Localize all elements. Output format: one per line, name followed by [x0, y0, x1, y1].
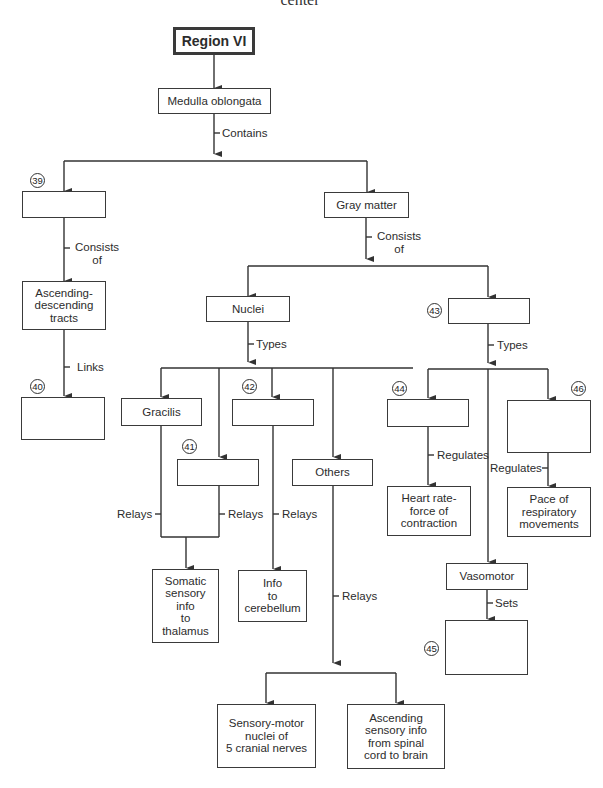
node-region-vi-text: Region VI	[182, 35, 247, 48]
node-somatic-sensory: Somatic sensory info to thalamus	[152, 569, 219, 643]
node-vasomotor-text: Vasomotor	[460, 570, 515, 583]
label-contains: Contains	[222, 127, 267, 140]
node-ascending-sensory-text: Ascending sensory info from spinal cord …	[364, 712, 428, 762]
node-heart-rate-text: Heart rate- force of contraction	[401, 492, 457, 530]
node-gray-matter-text: Gray matter	[336, 199, 397, 212]
node-others-text: Others	[315, 466, 350, 479]
node-vasomotor: Vasomotor	[446, 563, 528, 590]
node-pace-respiratory-text: Pace of respiratory movements	[519, 493, 578, 531]
label-relays-42: Relays	[282, 508, 317, 521]
number-badge-43: 43	[427, 303, 442, 318]
node-heart-rate: Heart rate- force of contraction	[387, 486, 471, 536]
node-blank-41[interactable]	[177, 459, 259, 486]
label-consists-left: Consists of	[75, 241, 119, 266]
node-blank-43[interactable]	[448, 298, 530, 324]
label-regulates-46: Regulates	[490, 462, 542, 475]
node-pace-respiratory: Pace of respiratory movements	[507, 487, 591, 537]
node-gracilis-text: Gracilis	[142, 406, 180, 419]
node-medulla-oblongata: Medulla oblongata	[158, 88, 271, 114]
node-blank-45[interactable]	[445, 620, 528, 675]
node-medulla-text: Medulla oblongata	[168, 95, 262, 108]
number-badge-44: 44	[392, 381, 407, 396]
label-consists-right: Consists of	[377, 230, 421, 255]
number-badge-40: 40	[30, 379, 45, 394]
node-blank-42[interactable]	[232, 399, 314, 426]
node-ascending-sensory-info: Ascending sensory info from spinal cord …	[347, 704, 445, 769]
label-types-43: Types	[497, 339, 528, 352]
node-gracilis: Gracilis	[121, 398, 202, 426]
node-blank-46[interactable]	[507, 400, 591, 453]
label-regulates-44: Regulates	[437, 449, 489, 462]
label-types-nuclei: Types	[256, 338, 287, 351]
node-nuclei-text: Nuclei	[232, 303, 264, 316]
node-sensory-motor-nuclei: Sensory-motor nuclei of 5 cranial nerves	[217, 704, 316, 768]
label-sets: Sets	[495, 597, 518, 610]
node-info-cerebellum: Info to cerebellum	[238, 570, 307, 622]
node-nuclei: Nuclei	[206, 296, 290, 322]
number-badge-41: 41	[182, 439, 197, 454]
number-badge-46: 46	[571, 381, 586, 396]
node-tracts: Ascending- descending tracts	[22, 281, 106, 330]
label-links: Links	[77, 361, 104, 374]
node-blank-44[interactable]	[387, 399, 469, 427]
node-blank-39[interactable]	[22, 191, 106, 218]
number-badge-39: 39	[30, 173, 45, 188]
node-others: Others	[292, 459, 373, 486]
node-info-cerebellum-text: Info to cerebellum	[244, 577, 300, 615]
node-region-vi: Region VI	[173, 27, 255, 55]
number-badge-45: 45	[424, 641, 439, 656]
node-gray-matter: Gray matter	[324, 192, 409, 218]
node-blank-40[interactable]	[21, 397, 105, 440]
node-sensory-motor-text: Sensory-motor nuclei of 5 cranial nerves	[226, 717, 307, 755]
label-relays-gracilis: Relays	[117, 508, 152, 521]
node-somatic-sensory-text: Somatic sensory info to thalamus	[162, 575, 209, 638]
label-relays-41: Relays	[228, 508, 263, 521]
number-badge-42: 42	[242, 379, 257, 394]
node-tracts-text: Ascending- descending tracts	[35, 287, 94, 325]
label-relays-others: Relays	[342, 590, 377, 603]
